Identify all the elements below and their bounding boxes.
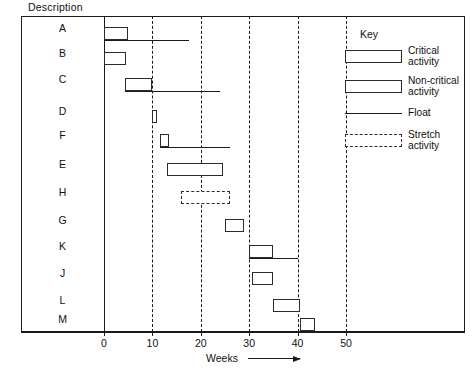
activity-bar-c[interactable] (125, 78, 153, 91)
row-label-h: H (21, 187, 104, 198)
non-critical-activity-swatch-icon (345, 80, 402, 93)
gantt-chart-figure: Description ABCDFEHGKJLM 01020304050 Wee… (0, 0, 475, 369)
gridline-week-30 (249, 16, 250, 332)
legend-label-line2: activity (408, 141, 440, 152)
legend-item-stretch-activity: Stretch activity (345, 130, 470, 152)
x-axis-title: Weeks (206, 352, 238, 364)
x-axis-arrow (248, 358, 300, 359)
row-label-l: L (21, 295, 104, 306)
activity-bar-f[interactable] (160, 134, 170, 147)
critical-activity-swatch-icon (345, 50, 402, 63)
description-column-title: Description (28, 1, 83, 13)
x-tick-label-10: 10 (147, 337, 159, 349)
row-label-c: C (21, 74, 104, 85)
float-line-a (104, 40, 189, 41)
row-label-d: D (21, 106, 104, 117)
legend-item-non-critical-activity: Non-critical activity (345, 76, 470, 98)
x-tick-label-40: 40 (292, 337, 304, 349)
legend-label-line1: Float (408, 108, 431, 119)
float-line-c (125, 91, 220, 92)
x-tick-label-50: 50 (340, 337, 352, 349)
activity-bar-l[interactable] (273, 299, 300, 312)
row-label-e: E (21, 159, 104, 170)
x-tick-label-0: 0 (101, 337, 107, 349)
activity-bar-g[interactable] (225, 219, 244, 232)
activity-bar-h[interactable] (181, 191, 229, 204)
legend-item-label: Non-critical activity (408, 76, 459, 98)
row-label-k: K (21, 241, 104, 252)
activity-bar-d[interactable] (152, 110, 157, 123)
activity-bar-j[interactable] (252, 272, 274, 285)
row-label-b: B (21, 48, 104, 59)
x-tick-50 (346, 332, 347, 336)
x-tick-label-20: 20 (195, 337, 207, 349)
legend-item-label: Stretch activity (408, 130, 440, 152)
row-label-f: F (21, 130, 104, 141)
activity-bar-e[interactable] (167, 163, 223, 176)
activity-bar-m[interactable] (300, 318, 315, 331)
row-label-j: J (21, 268, 104, 279)
x-tick-20 (201, 332, 202, 336)
stretch-activity-swatch-icon (345, 134, 402, 147)
gridline-week-10 (152, 16, 153, 332)
x-tick-40 (298, 332, 299, 336)
x-axis-line (21, 332, 465, 333)
row-label-m: M (21, 314, 104, 325)
legend-label-line2: activity (408, 87, 459, 98)
legend-item-critical-activity: Critical activity (345, 46, 470, 68)
float-line-k (249, 258, 297, 259)
activity-bar-k[interactable] (249, 245, 273, 258)
legend-item-label: Critical activity (408, 46, 439, 68)
x-tick-10 (152, 332, 153, 336)
activity-bar-a[interactable] (104, 27, 128, 40)
row-label-g: G (21, 215, 104, 226)
row-label-a: A (21, 23, 104, 34)
legend-item-float: Float (345, 108, 470, 119)
float-swatch-icon (345, 113, 402, 114)
legend-title: Key (360, 28, 378, 40)
x-tick-label-30: 30 (243, 337, 255, 349)
gridline-week-40 (298, 16, 299, 332)
activity-bar-b[interactable] (104, 52, 126, 65)
float-line-f (160, 147, 230, 148)
legend-label-line2: activity (408, 57, 439, 68)
x-tick-0 (104, 332, 105, 336)
x-tick-30 (249, 332, 250, 336)
legend-item-label: Float (408, 108, 431, 119)
